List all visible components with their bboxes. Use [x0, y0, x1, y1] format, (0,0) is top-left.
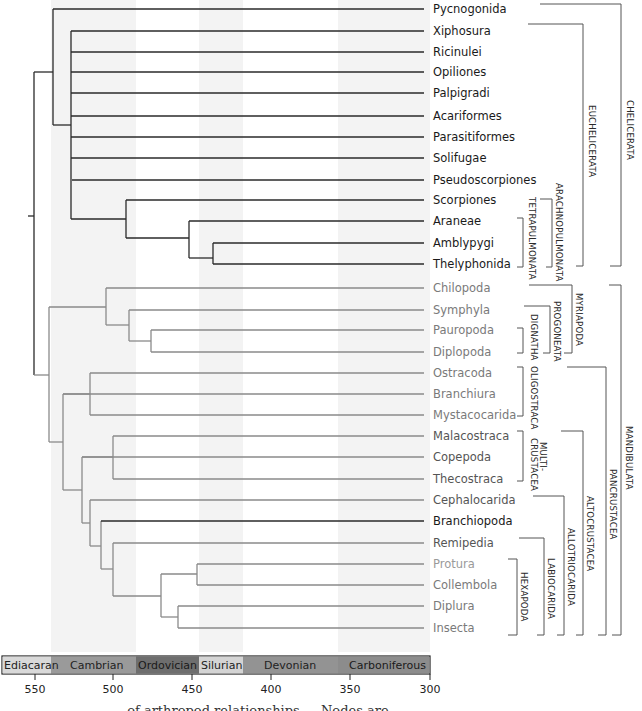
taxon-label: Scorpiones	[433, 193, 496, 207]
clade-label-myriapoda: MYRIAPODA	[574, 293, 584, 346]
clade-label-tetrapulmonata: TETRAPULMONATA	[527, 196, 537, 280]
period-label: Ordovician	[138, 659, 197, 672]
clade-label-altocrustacea: ALTOCRUSTACEA	[585, 496, 595, 571]
clade-brackets	[508, 4, 621, 635]
taxon-label: Opiliones	[433, 65, 486, 79]
taxon-label: Thelyphonida	[432, 257, 511, 271]
period-label: Silurian	[201, 659, 242, 672]
taxon-label: Acariformes	[433, 109, 502, 123]
tick-label: 450	[182, 683, 203, 696]
figure-caption-fragment: … of arthropod relationships … Nodes are	[0, 700, 642, 711]
taxon-label: Collembola	[433, 578, 497, 592]
period-label: Ediacaran	[4, 659, 59, 672]
taxon-labels: Pycnogonida Xiphosura Ricinulei Opilione…	[432, 2, 536, 635]
taxon-label: Mystacocarida	[433, 408, 516, 422]
tick-label: 400	[261, 683, 282, 696]
taxon-label: Amblypygi	[433, 236, 494, 250]
taxon-label: Thecostraca	[432, 472, 503, 486]
band-carboniferous	[338, 0, 430, 652]
taxon-label: Parasitiformes	[433, 130, 515, 144]
taxon-label: Palpigradi	[433, 86, 490, 100]
taxon-label: Pseudoscorpiones	[433, 173, 536, 187]
tick-label: 350	[340, 683, 361, 696]
timescale-ticks	[35, 674, 430, 680]
taxon-label: Cephalocarida	[433, 493, 516, 507]
tick-label: 550	[25, 683, 46, 696]
clade-label-multicrustacea-2: CRUSTACEA	[529, 438, 539, 491]
taxon-label: Branchiopoda	[433, 514, 512, 528]
taxon-label: Remipedia	[433, 536, 494, 550]
clade-label-chelicerata: CHELICERATA	[625, 100, 635, 160]
clade-label-pancrustacea: PANCRUSTACEA	[608, 469, 618, 540]
taxon-label: Xiphosura	[433, 24, 491, 38]
taxon-label: Protura	[433, 557, 475, 571]
taxon-label: Copepoda	[433, 450, 491, 464]
taxon-label: Branchiura	[433, 387, 496, 401]
taxon-label: Diplopoda	[433, 345, 491, 359]
taxon-label: Diplura	[433, 599, 475, 613]
taxon-label: Pauropoda	[433, 323, 494, 337]
taxon-label: Solifugae	[433, 151, 487, 165]
taxon-label: Malacostraca	[433, 429, 509, 443]
clade-label-labiocarida: LABIOCARIDA	[546, 558, 556, 619]
clade-labels: CHELICERATA EUCHELICERATA ARACHNOPULMONA…	[519, 100, 635, 622]
taxon-label: Ricinulei	[433, 45, 482, 59]
taxon-label: Araneae	[433, 214, 481, 228]
background-bands	[51, 0, 430, 652]
clade-label-dignatha: DIGNATHA	[529, 314, 539, 361]
period-label: Cambrian	[70, 659, 123, 672]
taxon-label: Ostracoda	[433, 366, 492, 380]
tick-label: 300	[420, 683, 441, 696]
clade-label-mandibulata: MANDIBULATA	[624, 426, 634, 490]
clade-label-progoneata: PROGONEATA	[552, 301, 562, 362]
taxon-label: Pycnogonida	[433, 2, 507, 16]
clade-label-oligostraca: OLIGOSTRACA	[529, 366, 539, 430]
phylogeny-svg: Pycnogonida Xiphosura Ricinulei Opilione…	[0, 0, 642, 711]
clade-label-euchelicerata: EUCHELICERATA	[587, 105, 597, 177]
phylogeny-figure: Pycnogonida Xiphosura Ricinulei Opilione…	[0, 0, 642, 711]
taxon-label: Symphyla	[433, 303, 490, 317]
band-cambrian	[51, 0, 136, 652]
period-label: Carboniferous	[349, 659, 426, 672]
clade-label-allotriocarida: ALLOTRIOCARIDA	[566, 528, 576, 606]
clade-label-hexapoda: HEXAPODA	[519, 572, 529, 622]
period-label: Devonian	[264, 659, 316, 672]
tick-label: 500	[103, 683, 124, 696]
taxon-label: Chilopoda	[433, 281, 490, 295]
band-silurian	[199, 0, 243, 652]
timescale: Ediacaran Cambrian Ordovician Silurian D…	[2, 656, 441, 696]
clade-label-arachnopulmonata: ARACHNOPULMONATA	[554, 183, 564, 282]
taxon-label: Insecta	[433, 621, 475, 635]
